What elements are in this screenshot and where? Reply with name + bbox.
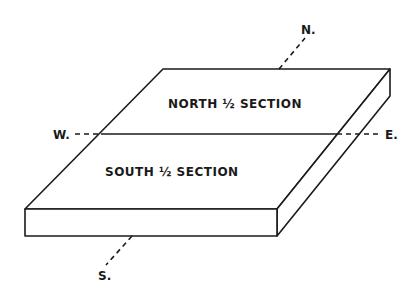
section-diagram: NORTH ½ SECTION SOUTH ½ SECTION N. S. W.… [0,0,420,303]
south-half-label: SOUTH ½ SECTION [105,165,239,179]
north-label: N. [301,23,316,37]
north-axis-line [279,38,305,69]
block-front-face [25,209,277,236]
west-label: W. [53,128,70,142]
south-axis-line [106,236,132,265]
east-label: E. [385,128,398,142]
south-label: S. [98,269,111,283]
north-half-label: NORTH ½ SECTION [168,97,302,111]
